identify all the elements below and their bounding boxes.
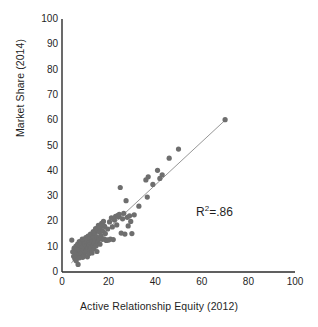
data-point <box>160 172 165 177</box>
data-point <box>132 212 137 217</box>
r-squared-annotation: R2=.86 <box>196 204 233 219</box>
data-point <box>69 238 74 243</box>
data-point <box>103 231 108 236</box>
data-point <box>129 231 134 236</box>
data-point <box>155 168 160 173</box>
data-point <box>127 213 132 218</box>
data-point <box>223 117 228 122</box>
data-point <box>128 219 133 224</box>
x-tick-label-60: 60 <box>182 277 222 287</box>
x-axis-title: Active Relationship Equity (2012) <box>0 300 318 312</box>
x-axis-tick-labels: 020406080100 <box>0 277 318 291</box>
data-point <box>97 242 102 247</box>
data-point <box>111 237 116 242</box>
r-squared-prefix: R <box>196 205 205 219</box>
data-point <box>150 182 155 187</box>
data-point <box>123 198 128 203</box>
data-point <box>146 174 151 179</box>
data-point <box>75 262 80 267</box>
x-tick-label-100: 100 <box>275 277 315 287</box>
data-point <box>94 249 99 254</box>
data-point <box>136 204 141 209</box>
data-point <box>120 216 125 221</box>
r-squared-value: =.86 <box>209 205 233 219</box>
data-point <box>121 211 126 216</box>
data-point <box>101 219 106 224</box>
x-tick-label-40: 40 <box>135 277 175 287</box>
x-tick-label-80: 80 <box>228 277 268 287</box>
data-point <box>145 195 150 200</box>
data-point <box>122 231 127 236</box>
data-point <box>126 223 131 228</box>
data-point <box>114 222 119 227</box>
x-tick-label-0: 0 <box>42 277 82 287</box>
data-point <box>118 185 123 190</box>
data-point <box>105 226 110 231</box>
data-point <box>117 212 122 217</box>
data-point <box>167 156 172 161</box>
x-tick-label-20: 20 <box>89 277 129 287</box>
data-point <box>110 224 115 229</box>
scatter-chart: Market Share (2014) 10090807060504030201… <box>0 0 318 327</box>
data-point <box>176 146 181 151</box>
